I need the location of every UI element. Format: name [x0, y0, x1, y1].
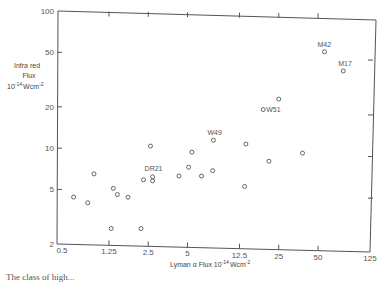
- data-point: [277, 97, 281, 101]
- point-label: M42: [317, 41, 331, 48]
- y-tick-label: 10: [45, 144, 54, 153]
- x-axis-title: Lyman α Flux 10-14Wcm-2: [170, 259, 251, 269]
- data-point: [109, 227, 113, 231]
- y-axis-title-line3: 10-14Wcm-2: [7, 81, 44, 90]
- data-point: [92, 172, 96, 176]
- y-tick-label: 100: [41, 7, 55, 16]
- data-point: [151, 179, 155, 183]
- x-tick-label: 2.5: [143, 248, 155, 257]
- y-axis-title-line2: Flux: [22, 72, 36, 79]
- data-point: [341, 69, 345, 73]
- point-label: DR21: [145, 165, 163, 172]
- point-label: M17: [338, 60, 352, 67]
- x-tick-label: 125: [363, 254, 377, 263]
- y-axis-title-line1: Infra red: [14, 62, 40, 69]
- data-point: [211, 138, 215, 142]
- figure-caption: The class of high...: [6, 272, 74, 282]
- y-tick-label: 2: [50, 240, 55, 249]
- y-tick-label: 50: [45, 48, 54, 57]
- data-point: [267, 159, 271, 163]
- data-point: [301, 151, 305, 155]
- data-point: [211, 169, 215, 173]
- data-point: [151, 175, 155, 179]
- data-point: [72, 195, 76, 199]
- y-tick-label: 20: [45, 103, 54, 112]
- x-tick-label: 1.25: [101, 247, 117, 256]
- data-point: [111, 186, 115, 190]
- x-tick-label: 50: [314, 253, 323, 262]
- data-point: [126, 195, 130, 199]
- data-point: [148, 144, 152, 148]
- x-axis-ticks: 0.51.252.5512.52550125: [56, 11, 377, 263]
- point-label: W51: [266, 106, 281, 113]
- data-point: [243, 184, 247, 188]
- data-point: [200, 174, 204, 178]
- data-point: [86, 201, 90, 205]
- x-tick-label: 25: [274, 252, 283, 261]
- data-point: [142, 178, 146, 182]
- x-tick-label: 0.5: [56, 246, 68, 255]
- data-point: [190, 150, 194, 154]
- y-tick-label: 5: [50, 185, 55, 194]
- data-point: [187, 165, 191, 169]
- data-point: [115, 193, 119, 197]
- point-label: W49: [207, 129, 222, 136]
- data-point: [322, 50, 326, 54]
- data-point: [261, 108, 265, 112]
- data-point: [177, 174, 181, 178]
- data-points: DR21W49W51M42M17: [72, 41, 352, 231]
- x-tick-label: 5: [185, 249, 190, 258]
- data-point: [244, 142, 248, 146]
- data-point: [139, 227, 143, 231]
